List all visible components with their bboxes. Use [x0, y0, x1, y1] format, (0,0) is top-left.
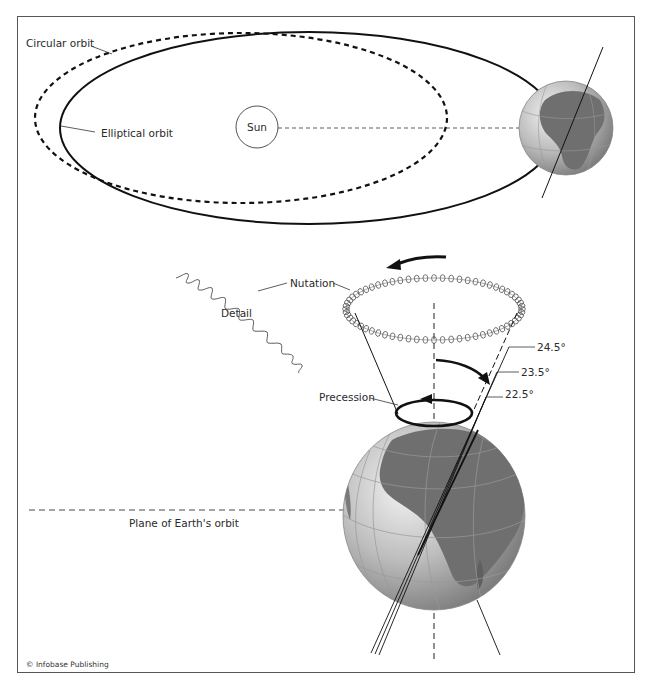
elliptical-orbit-leader — [61, 126, 95, 132]
angle-label-22-5: 22.5° — [505, 388, 534, 400]
nutation-leader-left — [258, 283, 287, 291]
credit-text: © Infobase Publishing — [26, 660, 109, 669]
orbit-panel: Sun Circular orbit Elliptical orbit — [26, 32, 613, 224]
circular-orbit-label: Circular orbit — [26, 37, 94, 49]
cone-line-bottom — [477, 600, 500, 655]
plane-label: Plane of Earth's orbit — [129, 517, 239, 529]
detail-label: Detail — [221, 307, 252, 319]
nutation-detail-coil — [176, 273, 302, 373]
precession-label: Precession — [319, 391, 375, 403]
precession-panel: Detail Nutation Plane of Earth's orbit — [29, 257, 566, 660]
tilt-arrow — [436, 360, 484, 378]
sun-label: Sun — [247, 121, 267, 133]
angle-label-24-5: 24.5° — [537, 341, 566, 353]
nutation-label: Nutation — [290, 277, 335, 289]
precession-arrowhead-icon — [420, 394, 432, 404]
circular-orbit-leader — [91, 46, 112, 54]
top-rotation-arrow — [397, 257, 446, 264]
top-rotation-arrowhead-icon — [386, 259, 401, 270]
earth-small-globe — [519, 47, 613, 198]
nutation-leader-right — [333, 283, 350, 290]
earth-orbit-precession-diagram: Sun Circular orbit Elliptical orbit — [0, 0, 648, 688]
angle-label-23-5: 23.5° — [521, 366, 550, 378]
elliptical-orbit-label: Elliptical orbit — [101, 127, 173, 139]
